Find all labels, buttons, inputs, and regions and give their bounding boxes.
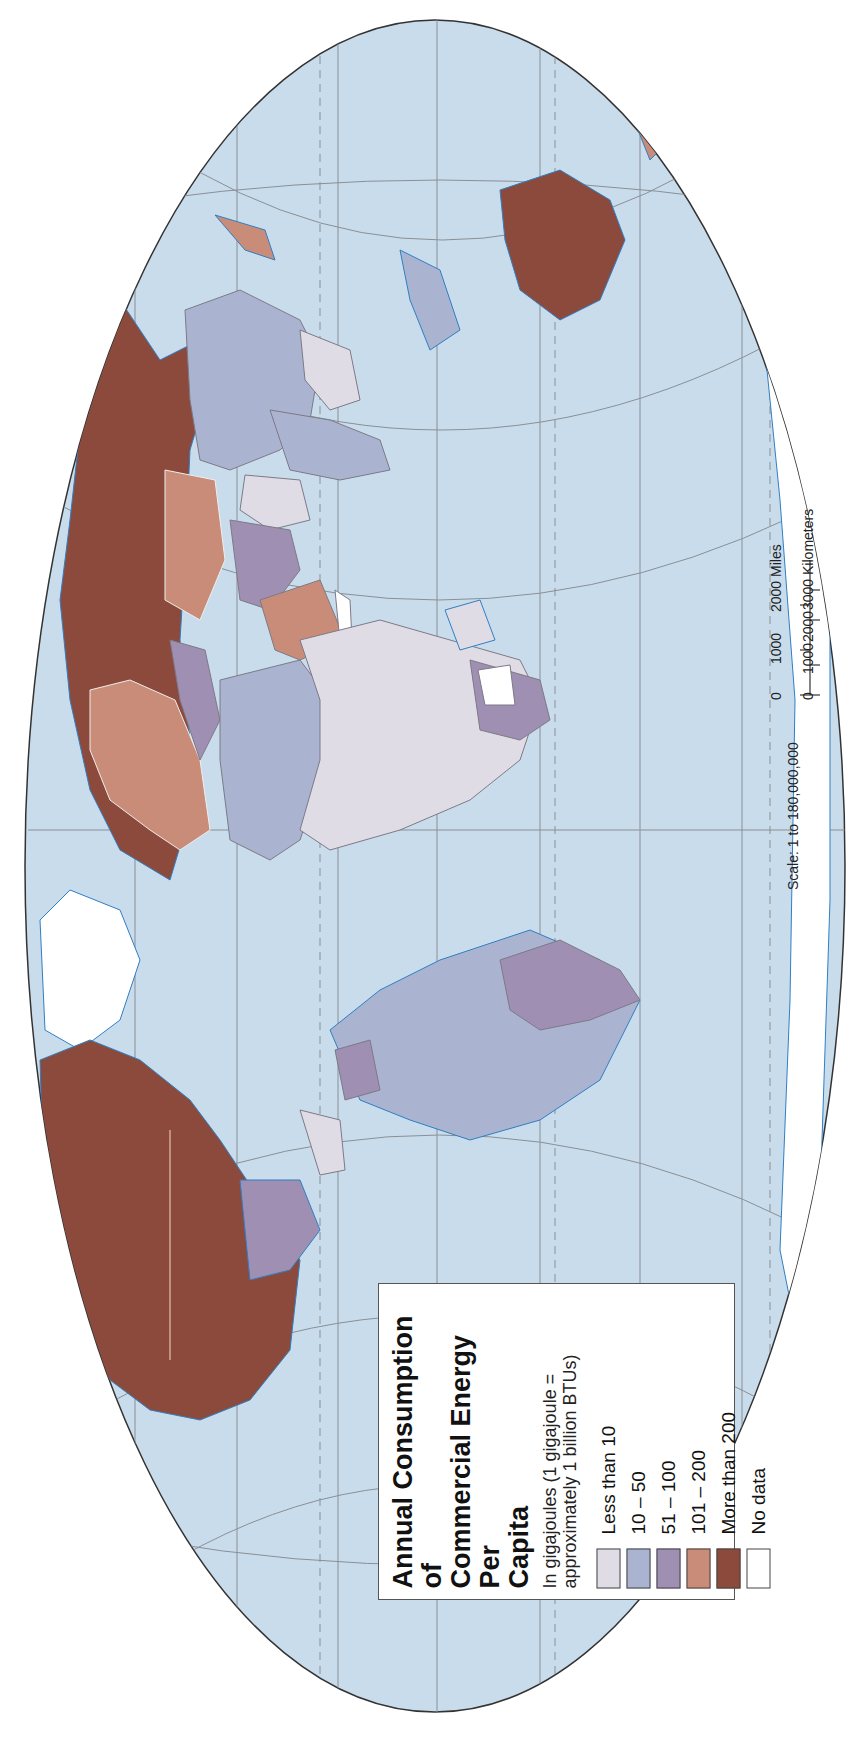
legend-label: 10 – 50	[627, 1471, 649, 1534]
legend-title-line: Commercial Energy Per	[446, 1295, 504, 1588]
legend-item-10-50: 10 – 50	[623, 1295, 653, 1588]
scale-miles-1000: 1000	[768, 633, 784, 664]
legend-item-less-than-10: Less than 10	[593, 1295, 623, 1588]
legend-label: Less than 10	[597, 1425, 619, 1534]
swatch-less-than-10	[596, 1548, 620, 1588]
legend-item-101-200: 101 – 200	[683, 1295, 713, 1588]
legend-subtitle: In gigajoules (1 gigajoule = approximate…	[539, 1295, 579, 1588]
swatch-51-100	[656, 1548, 680, 1588]
scale-km-1000: 1000	[800, 643, 816, 674]
legend-title-line: Capita	[504, 1295, 533, 1588]
map-scale: Scale: 1 to 180,000,000 0 1000 2000 Mile…	[700, 430, 856, 900]
map-legend: Annual Consumption of Commercial Energy …	[378, 1283, 735, 1600]
legend-label: 51 – 100	[657, 1460, 679, 1534]
swatch-10-50	[626, 1548, 650, 1588]
scale-miles-0: 0	[768, 692, 784, 700]
legend-label: 101 – 200	[687, 1449, 709, 1534]
swatch-no-data	[746, 1548, 770, 1588]
scale-km-0: 0	[800, 692, 816, 700]
legend-item-no-data: No data	[743, 1295, 773, 1588]
legend-label: No data	[747, 1467, 769, 1534]
legend-subtitle-line: approximately 1 billion BTUs)	[559, 1295, 579, 1588]
scale-km-2000: 2000	[800, 611, 816, 642]
swatch-101-200	[686, 1548, 710, 1588]
scale-km-3000: 3000 Kilometers	[800, 509, 816, 610]
legend-item-more-than-200: More than 200	[713, 1295, 743, 1588]
legend-item-51-100: 51 – 100	[653, 1295, 683, 1588]
legend-title: Annual Consumption of Commercial Energy …	[388, 1295, 533, 1588]
legend-label: More than 200	[717, 1411, 739, 1534]
legend-title-line: Annual Consumption of	[388, 1295, 446, 1588]
scale-miles-2000: 2000 Miles	[768, 544, 784, 612]
scale-ratio: Scale: 1 to 180,000,000	[785, 742, 801, 890]
swatch-more-than-200	[716, 1548, 740, 1588]
legend-subtitle-line: In gigajoules (1 gigajoule =	[539, 1295, 559, 1588]
region-angola-nodata	[478, 665, 515, 705]
